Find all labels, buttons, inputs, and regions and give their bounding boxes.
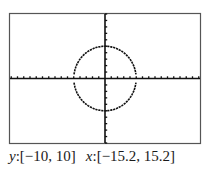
window-caption: y:[−10, 10]x:[−15.2, 15.2]: [9, 148, 175, 165]
graph-screen: [0, 0, 210, 150]
y-var-label: y: [9, 148, 16, 164]
x-range-value: :[−15.2, 15.2]: [92, 148, 175, 164]
y-range-value: :[−10, 10]: [16, 148, 76, 164]
